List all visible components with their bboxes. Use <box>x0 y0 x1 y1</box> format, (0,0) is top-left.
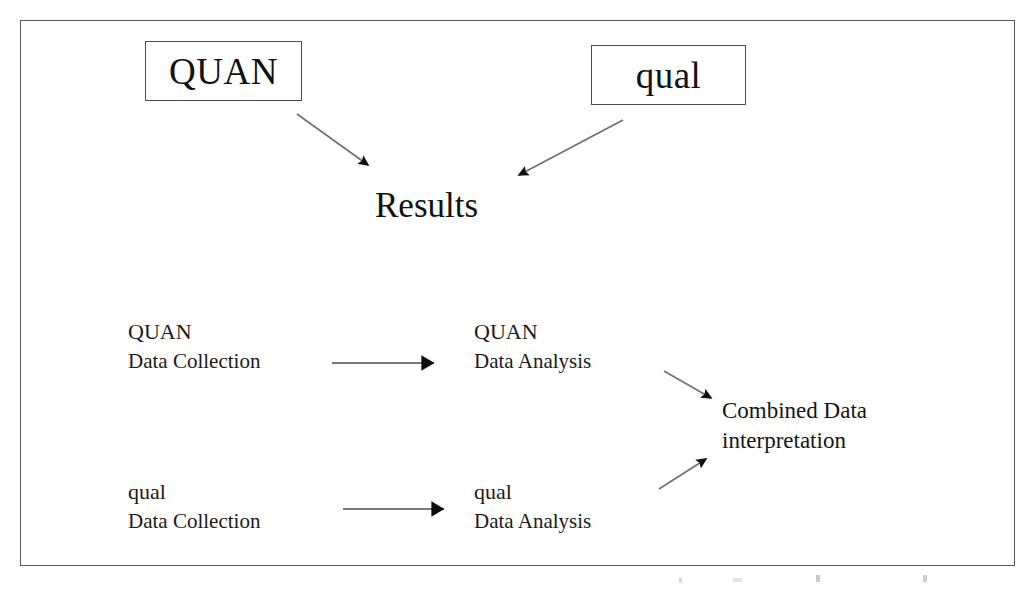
stage-qual-data-collection-subtitle: Data Collection <box>128 510 260 532</box>
stage-quan-data-collection-subtitle: Data Collection <box>128 350 260 372</box>
stage-quan-data-collection: QUAN Data Collection <box>128 320 260 372</box>
combined-data-interpretation-line1: Combined Data <box>722 396 867 426</box>
combined-data-interpretation-label: Combined Data interpretation <box>722 396 867 456</box>
scan-artifact <box>923 575 927 582</box>
stage-quan-data-analysis-title: QUAN <box>474 320 591 343</box>
stage-quan-data-collection-title: QUAN <box>128 320 260 343</box>
node-box-qual-label: qual <box>636 57 702 94</box>
stage-quan-data-analysis-subtitle: Data Analysis <box>474 350 591 372</box>
scan-artifact <box>733 578 742 582</box>
stage-qual-data-collection: qual Data Collection <box>128 480 260 532</box>
node-box-qual: qual <box>591 45 746 105</box>
stage-quan-data-analysis: QUAN Data Analysis <box>474 320 591 372</box>
results-label: Results <box>375 188 478 223</box>
combined-data-interpretation-line2: interpretation <box>722 426 867 456</box>
figure-canvas: QUAN qual Results QUAN Data Collection Q… <box>0 0 1030 589</box>
scan-artifact <box>679 578 682 583</box>
node-box-quan: QUAN <box>145 41 302 101</box>
stage-qual-data-collection-title: qual <box>128 480 260 503</box>
stage-qual-data-analysis-title: qual <box>474 480 591 503</box>
scan-artifact <box>816 575 820 582</box>
stage-qual-data-analysis: qual Data Analysis <box>474 480 591 532</box>
node-box-quan-label: QUAN <box>169 53 278 90</box>
stage-qual-data-analysis-subtitle: Data Analysis <box>474 510 591 532</box>
